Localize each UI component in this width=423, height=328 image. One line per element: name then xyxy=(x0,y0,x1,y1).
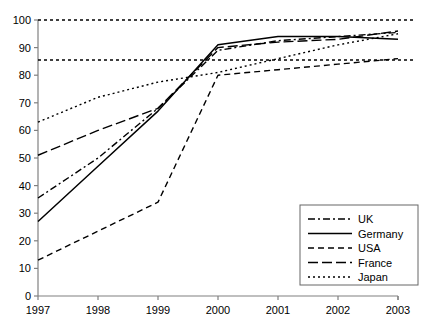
x-axis-tick-label: 1999 xyxy=(146,304,170,316)
series-line-uk xyxy=(38,32,398,198)
x-axis-tick-label: 2000 xyxy=(206,304,230,316)
y-axis-tick-label: 30 xyxy=(19,207,31,219)
y-axis-tick-label: 20 xyxy=(19,235,31,247)
y-axis-tick-label: 70 xyxy=(19,97,31,109)
y-axis-tick-label: 10 xyxy=(19,262,31,274)
y-axis-tick-label: 100 xyxy=(13,14,31,26)
x-axis-tick-label: 2002 xyxy=(326,304,350,316)
legend-label-uk: UK xyxy=(358,213,374,225)
line-chart: 0102030405060708090100199719981999200020… xyxy=(0,0,423,328)
y-axis-tick-label: 80 xyxy=(19,69,31,81)
chart-legend: UKGermanyUSAFranceJapan xyxy=(300,205,418,285)
x-axis-tick-label: 1998 xyxy=(86,304,110,316)
y-axis-tick-label: 50 xyxy=(19,152,31,164)
y-axis-tick-label: 0 xyxy=(25,290,31,302)
x-axis-tick-label: 1997 xyxy=(26,304,50,316)
x-axis-tick-label: 2001 xyxy=(266,304,290,316)
chart-canvas: 0102030405060708090100199719981999200020… xyxy=(0,0,423,328)
y-axis-tick-label: 90 xyxy=(19,42,31,54)
legend-label-germany: Germany xyxy=(358,228,404,240)
legend-label-japan: Japan xyxy=(358,271,388,283)
y-axis-tick-label: 60 xyxy=(19,124,31,136)
series-line-france xyxy=(38,31,398,155)
legend-label-usa: USA xyxy=(358,242,381,254)
y-axis-tick-label: 40 xyxy=(19,180,31,192)
legend-label-france: France xyxy=(358,257,392,269)
x-axis-tick-label: 2003 xyxy=(386,304,410,316)
